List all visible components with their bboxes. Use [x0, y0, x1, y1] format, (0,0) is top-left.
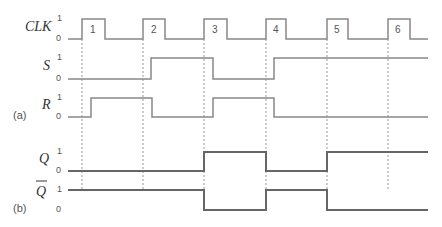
pulse-number: 4: [273, 24, 279, 35]
timing-diagram: [0, 0, 442, 227]
r-label: R: [42, 97, 51, 113]
clk-level-1: 1: [57, 13, 62, 23]
q-level-1: 1: [57, 146, 62, 156]
clk-label: CLK: [25, 19, 51, 35]
pulse-number: 5: [334, 24, 340, 35]
r-level-1: 1: [57, 92, 62, 102]
qbar-label: Q: [36, 184, 46, 200]
qbar-level-1: 1: [57, 184, 62, 194]
s-waveform: [68, 58, 428, 79]
part-b-label: (b): [13, 202, 26, 214]
s-level-0: 0: [56, 73, 61, 83]
s-label: S: [43, 58, 50, 74]
q-level-0: 0: [56, 165, 61, 175]
qbar-level-0: 0: [56, 204, 61, 214]
pulse-number: 2: [151, 24, 157, 35]
part-a-label: (a): [13, 109, 26, 121]
clk-waveform: [68, 19, 428, 39]
q-waveform: [68, 152, 428, 171]
pulse-number: 6: [395, 24, 401, 35]
q-label: Q: [39, 151, 49, 167]
r-waveform: [68, 98, 428, 117]
r-level-0: 0: [56, 111, 61, 121]
pulse-number: 3: [212, 24, 218, 35]
clk-level-0: 0: [56, 33, 61, 43]
pulse-number: 1: [90, 24, 96, 35]
clock-edge-guides: [82, 39, 388, 190]
s-level-1: 1: [57, 52, 62, 62]
qbar-waveform: [68, 190, 428, 210]
